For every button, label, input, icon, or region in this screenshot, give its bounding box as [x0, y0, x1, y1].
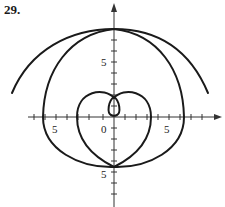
x-tick-label-origin: 0 [101, 123, 107, 135]
polar-plot: 5 0 5 5 5 [0, 0, 225, 207]
y-axis [111, 8, 117, 207]
x-tick-label-right: 5 [164, 123, 170, 135]
y-tick-label-top: 5 [101, 56, 107, 68]
y-axis-arrow-icon [111, 3, 117, 12]
x-axis [28, 114, 218, 120]
y-tick-label-bottom: 5 [101, 168, 107, 180]
x-axis-arrow-icon [214, 114, 222, 120]
x-tick-label-left: 5 [52, 123, 58, 135]
